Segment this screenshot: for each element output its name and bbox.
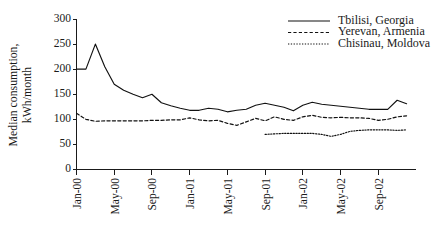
y-tick-label: 150 — [54, 87, 72, 99]
x-tick-label: Jan-02 — [297, 178, 309, 209]
series-line-chisinau — [265, 130, 406, 137]
series-line-tbilisi — [77, 44, 407, 112]
legend-label-2: Chisinau, Moldova — [338, 36, 431, 50]
y-tick-label: 0 — [65, 162, 71, 174]
y-axis-title-group: Median consumption, kWh/month — [6, 44, 34, 147]
y-tick-label: 100 — [54, 112, 72, 124]
y-tick-label: 50 — [60, 137, 72, 149]
y-axis-title-line2: kWh/month — [20, 67, 34, 123]
x-axis-tick-marks — [77, 170, 379, 175]
chart-legend: Tbilisi, GeorgiaYerevan, ArmeniaChisinau… — [288, 13, 431, 50]
x-tick-label: May-00 — [109, 178, 122, 215]
series-line-yerevan — [77, 113, 407, 125]
x-tick-label: Jan-01 — [184, 178, 196, 209]
x-tick-label: May-02 — [335, 178, 348, 215]
x-tick-label: May-01 — [222, 178, 235, 215]
x-tick-label: Sep-00 — [146, 178, 159, 211]
y-tick-label: 200 — [54, 62, 72, 74]
x-tick-label: Jan-00 — [71, 178, 83, 209]
y-axis-title-line1: Median consumption, — [6, 44, 20, 147]
y-axis-tick-marks — [73, 19, 77, 170]
y-axis-tick-labels: 050100150200250300 — [54, 12, 72, 175]
x-tick-label: Sep-01 — [260, 178, 273, 211]
y-tick-label: 250 — [54, 37, 72, 49]
x-axis-tick-labels: Jan-00May-00Sep-00Jan-01May-01Sep-01Jan-… — [71, 178, 386, 215]
x-tick-label: Sep-02 — [373, 178, 386, 211]
data-series-group — [77, 44, 407, 136]
chart-figure: Median consumption, kWh/month 0501001502… — [0, 0, 439, 238]
line-chart-plot: Median consumption, kWh/month 0501001502… — [0, 0, 439, 238]
y-tick-label: 300 — [54, 12, 72, 24]
